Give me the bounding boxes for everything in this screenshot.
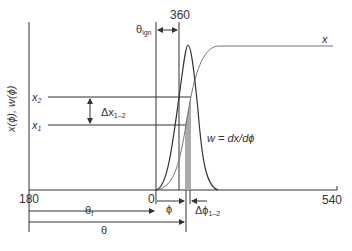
- zero-label: 0: [148, 192, 155, 206]
- theta-ign-label: θign: [136, 23, 152, 37]
- delta-phi-label: Δϕ1–2: [195, 204, 220, 217]
- x-min-label: 180: [19, 192, 39, 206]
- x2-label: x2: [31, 91, 42, 104]
- x-max-label: 540: [322, 193, 342, 207]
- x1-label: x1: [31, 119, 42, 132]
- delta-x-label: Δx1–2: [101, 106, 126, 119]
- combustion-burn-diagram: θign 360 x x(ϕ), w(ϕ) x2 x1 Δx1–2 w = dx…: [0, 0, 352, 251]
- w-equation-label: w = dx/dϕ: [207, 132, 254, 144]
- phi-label: ϕ: [166, 203, 172, 215]
- theta-f-label: θf: [85, 204, 93, 217]
- theta-label: θ: [101, 224, 107, 236]
- tdc-label: 360: [170, 8, 190, 22]
- y-axis-label: x(ϕ), w(ϕ): [5, 85, 17, 133]
- curve-x-label: x: [321, 33, 328, 45]
